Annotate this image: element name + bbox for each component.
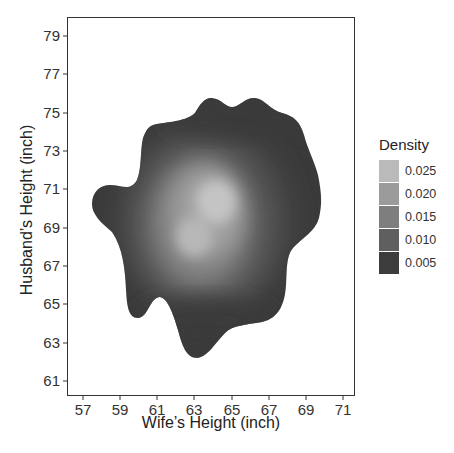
y-tick-label: 75 [30,104,60,121]
y-axis-ticks [63,36,67,381]
x-axis-title: Wife’s Height (inch) [67,414,355,432]
density-peak-secondary [176,217,212,257]
y-tick-label: 63 [30,334,60,351]
y-tick-label: 65 [30,295,60,312]
density-peak-primary [196,180,236,224]
legend-label: 0.025 [405,164,436,178]
legend-swatch [379,252,399,274]
legend-item: 0.010 [379,228,436,251]
y-axis-title: Husband’s Height (inch) [18,125,36,295]
legend-swatch [379,160,399,182]
legend-item: 0.015 [379,205,436,228]
density-dark-lobe-top [165,102,315,138]
y-tick-label: 61 [30,372,60,389]
legend-label: 0.010 [405,233,436,247]
y-tick-label: 79 [30,27,60,44]
x-axis-ticks [83,396,343,400]
legend-label: 0.020 [405,187,436,201]
legend-swatch [379,206,399,228]
legend-title: Density [379,136,436,153]
legend-label: 0.005 [405,256,436,270]
legend-label: 0.015 [405,210,436,224]
y-tick-label: 77 [30,65,60,82]
legend-swatch [379,229,399,251]
legend-swatch [379,183,399,205]
legend: Density 0.025 0.020 0.015 0.010 0.005 [379,136,436,274]
legend-item: 0.020 [379,182,436,205]
density-dark-lobe-bottom [135,298,275,342]
legend-item: 0.025 [379,159,436,182]
legend-item: 0.005 [379,251,436,274]
